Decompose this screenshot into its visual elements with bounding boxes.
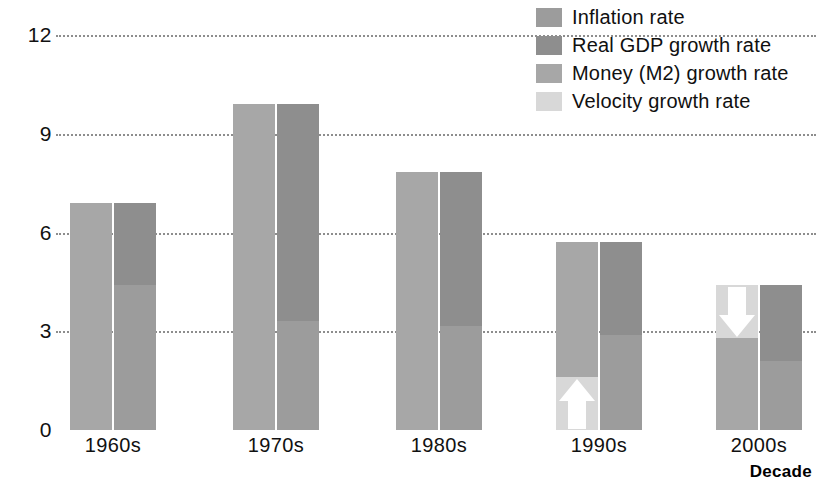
bar-segment-money-m2-2000s — [716, 338, 758, 430]
x-axis-tick-label-1960s: 1960s — [52, 434, 174, 456]
x-axis-tick-label-1970s: 1970s — [215, 434, 337, 456]
legend-item-2[interactable]: Money (M2) growth rate — [536, 60, 789, 86]
bar-segment-real-gdp-2000s — [760, 285, 802, 361]
chart-container: 036912 1960s1970s1980s1990s2000s Decade … — [0, 0, 820, 491]
gridline-9 — [56, 134, 816, 136]
bar-segment-velocity-2000s — [716, 285, 758, 338]
y-axis-tick-label: 12 — [6, 24, 52, 45]
bar-segment-money-m2-1970s — [233, 104, 275, 430]
bar-gdp-inflation-1960s[interactable] — [114, 203, 156, 430]
legend-item-label: Inflation rate — [572, 7, 685, 27]
bar-segment-money-m2-1990s — [556, 242, 598, 377]
bar-money-m2-1980s[interactable] — [396, 172, 438, 430]
bar-segment-inflation-1980s — [440, 326, 482, 430]
bar-segment-inflation-1970s — [277, 321, 319, 430]
legend-item-1[interactable]: Real GDP growth rate — [536, 32, 789, 58]
legend-swatch-icon — [536, 8, 562, 27]
bar-pair — [556, 242, 642, 430]
bar-money-m2-1990s[interactable] — [556, 242, 598, 430]
legend-item-label: Velocity growth rate — [572, 91, 751, 111]
bar-segment-real-gdp-1970s — [277, 104, 319, 321]
x-axis-tick-label-1980s: 1980s — [378, 434, 500, 456]
x-axis-tick-label-1990s: 1990s — [538, 434, 660, 456]
arrow-up-icon — [557, 377, 597, 431]
bar-pair — [396, 172, 482, 430]
y-axis-tick-label: 9 — [6, 123, 52, 144]
bar-money-m2-2000s[interactable] — [716, 285, 758, 430]
bar-segment-real-gdp-1960s — [114, 203, 156, 285]
bar-pair — [716, 285, 802, 430]
bar-segment-real-gdp-1990s — [600, 242, 642, 334]
bar-segment-real-gdp-1980s — [440, 172, 482, 327]
legend-swatch-icon — [536, 64, 562, 83]
chart-legend: Inflation rateReal GDP growth rateMoney … — [536, 4, 789, 116]
bar-segment-inflation-2000s — [760, 361, 802, 430]
arrow-down-icon — [717, 285, 757, 339]
bar-segment-inflation-1960s — [114, 285, 156, 430]
bar-segment-money-m2-1980s — [396, 172, 438, 430]
legend-item-3[interactable]: Velocity growth rate — [536, 88, 789, 114]
bar-segment-inflation-1990s — [600, 335, 642, 430]
x-axis-title: Decade — [750, 462, 812, 482]
legend-item-label: Money (M2) growth rate — [572, 63, 789, 83]
y-axis-tick-label: 3 — [6, 320, 52, 341]
legend-item-0[interactable]: Inflation rate — [536, 4, 789, 30]
bar-segment-velocity-1990s — [556, 377, 598, 430]
bar-gdp-inflation-1990s[interactable] — [600, 242, 642, 430]
legend-swatch-icon — [536, 36, 562, 55]
bar-money-m2-1960s[interactable] — [70, 203, 112, 430]
bar-gdp-inflation-1980s[interactable] — [440, 172, 482, 430]
bar-pair — [233, 104, 319, 430]
x-axis-tick-label-2000s: 2000s — [698, 434, 820, 456]
bar-gdp-inflation-1970s[interactable] — [277, 104, 319, 430]
bar-segment-money-m2-1960s — [70, 203, 112, 430]
y-axis-tick-label: 6 — [6, 222, 52, 243]
bar-pair — [70, 203, 156, 430]
legend-item-label: Real GDP growth rate — [572, 35, 771, 55]
bar-money-m2-1970s[interactable] — [233, 104, 275, 430]
y-axis-tick-label: 0 — [6, 419, 52, 440]
legend-swatch-icon — [536, 92, 562, 111]
bar-gdp-inflation-2000s[interactable] — [760, 285, 802, 430]
